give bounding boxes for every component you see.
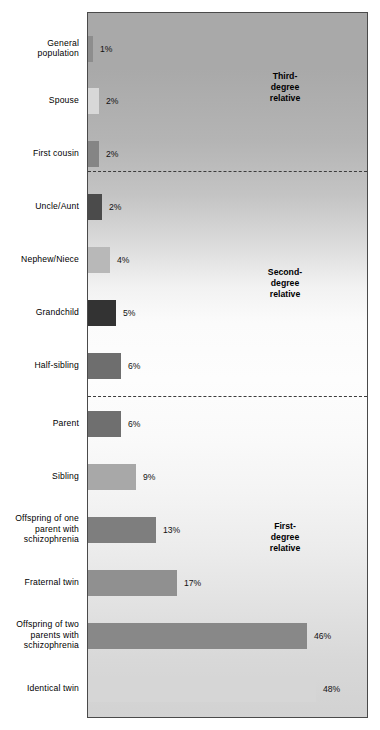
category-label-10: Fraternal twin: [0, 577, 79, 587]
group-label-third-degree: Third-degreerelative: [240, 71, 330, 105]
category-label-line: General: [0, 38, 79, 48]
category-label-0: Generalpopulation: [0, 38, 79, 59]
value-label-11: 46%: [314, 631, 331, 641]
category-label-7: Parent: [0, 418, 79, 428]
category-label-11: Offspring of twoparents withschizophreni…: [0, 619, 79, 650]
category-label-line: Parent: [0, 418, 79, 428]
bar-9: [88, 517, 156, 543]
bar-4: [88, 247, 110, 273]
category-label-3: Uncle/Aunt: [0, 201, 79, 211]
category-label-5: Grandchild: [0, 307, 79, 317]
group-label-first-degree: First-degreerelative: [240, 521, 330, 555]
category-label-8: Sibling: [0, 471, 79, 481]
category-label-2: First cousin: [0, 148, 79, 158]
value-label-8: 9%: [143, 472, 155, 482]
category-label-line: schizophrenia: [0, 640, 79, 650]
bar-0: [88, 36, 93, 62]
group-label-line: degree: [240, 278, 330, 289]
bar-5: [88, 300, 116, 326]
category-label-line: Sibling: [0, 471, 79, 481]
third-to-second-divider: [88, 171, 367, 172]
bar-7: [88, 411, 121, 437]
category-label-axis: GeneralpopulationSpouseFirst cousinUncle…: [0, 12, 83, 718]
category-label-line: population: [0, 48, 79, 58]
value-label-6: 6%: [128, 361, 140, 371]
bar-2: [88, 141, 99, 167]
bar-8: [88, 464, 136, 490]
value-label-7: 6%: [128, 419, 140, 429]
group-label-line: First-: [240, 521, 330, 532]
group-label-line: degree: [240, 82, 330, 93]
category-label-line: Offspring of two: [0, 619, 79, 629]
category-label-line: Half-sibling: [0, 360, 79, 370]
category-label-4: Nephew/Niece: [0, 254, 79, 264]
schizophrenia-risk-bar-chart: GeneralpopulationSpouseFirst cousinUncle…: [0, 0, 380, 730]
category-label-1: Spouse: [0, 95, 79, 105]
group-label-line: relative: [240, 93, 330, 104]
value-label-5: 5%: [123, 308, 135, 318]
group-label-line: degree: [240, 532, 330, 543]
category-label-line: schizophrenia: [0, 534, 79, 544]
category-label-line: Fraternal twin: [0, 577, 79, 587]
group-label-line: Third-: [240, 71, 330, 82]
category-label-9: Offspring of oneparent withschizophrenia: [0, 513, 79, 544]
bar-12: [88, 676, 316, 702]
category-label-line: Spouse: [0, 95, 79, 105]
bar-6: [88, 353, 121, 379]
category-label-line: Offspring of one: [0, 513, 79, 523]
category-label-line: parents with: [0, 630, 79, 640]
value-label-1: 2%: [106, 96, 118, 106]
category-label-line: First cousin: [0, 148, 79, 158]
plot-inner: 1%2%2%2%4%5%6%6%9%13%17%46%48%Third-degr…: [88, 13, 367, 717]
group-label-line: relative: [240, 543, 330, 554]
second-to-first-divider: [88, 396, 367, 397]
category-label-6: Half-sibling: [0, 360, 79, 370]
group-label-line: Second-: [240, 267, 330, 278]
group-label-second-degree: Second-degreerelative: [240, 267, 330, 301]
category-label-line: Identical twin: [0, 683, 79, 693]
value-label-0: 1%: [100, 44, 112, 54]
value-label-9: 13%: [163, 525, 180, 535]
category-label-line: Nephew/Niece: [0, 254, 79, 264]
value-label-12: 48%: [323, 684, 340, 694]
category-label-line: Uncle/Aunt: [0, 201, 79, 211]
category-label-line: Grandchild: [0, 307, 79, 317]
category-label-12: Identical twin: [0, 683, 79, 693]
bar-11: [88, 623, 307, 649]
bar-3: [88, 194, 102, 220]
category-label-line: parent with: [0, 524, 79, 534]
value-label-10: 17%: [184, 578, 201, 588]
group-label-line: relative: [240, 289, 330, 300]
bar-10: [88, 570, 177, 596]
value-label-3: 2%: [109, 202, 121, 212]
bar-1: [88, 88, 99, 114]
value-label-4: 4%: [117, 255, 129, 265]
value-label-2: 2%: [106, 149, 118, 159]
plot-area: 1%2%2%2%4%5%6%6%9%13%17%46%48%Third-degr…: [87, 12, 368, 718]
